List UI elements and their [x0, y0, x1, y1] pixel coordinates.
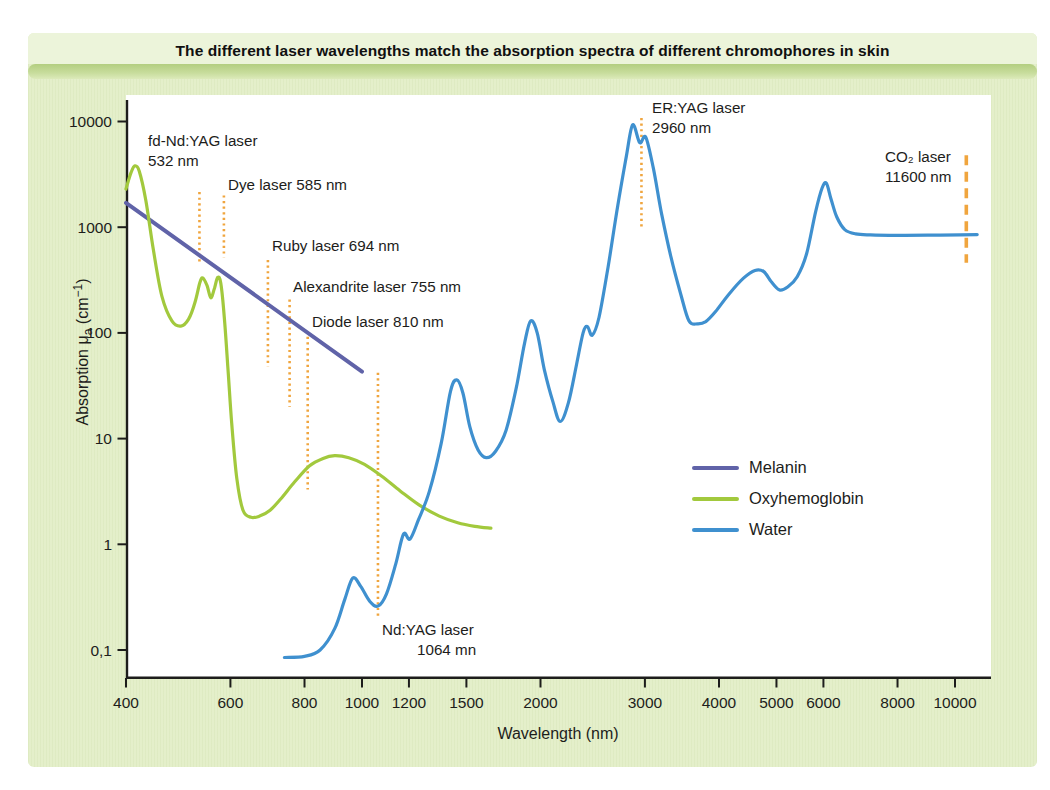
- y-tick-label: 1: [103, 536, 112, 553]
- chart-legend: MelaninOxyhemoglobinWater: [692, 452, 864, 545]
- figure-page: { "figure": { "title": "The different la…: [0, 0, 1050, 790]
- x-tick-label: 400: [113, 694, 139, 711]
- legend-row-water: Water: [692, 514, 864, 545]
- y-tick-label: 1000: [78, 219, 113, 236]
- x-axis-title: Wavelength (nm): [497, 725, 618, 742]
- x-tick-label: 8000: [880, 694, 915, 711]
- x-tick-label: 5000: [759, 694, 794, 711]
- x-tick-label: 10000: [933, 694, 976, 711]
- series-oxyhemoglobin: [126, 166, 491, 528]
- legend-label-melanin: Melanin: [749, 458, 807, 477]
- x-tick-label: 3000: [628, 694, 663, 711]
- x-tick-label: 1000: [345, 694, 380, 711]
- legend-swatch-melanin: [692, 466, 739, 470]
- x-tick-label: 6000: [806, 694, 841, 711]
- x-tick-label: 2000: [523, 694, 558, 711]
- legend-swatch-oxyhemoglobin: [692, 497, 739, 501]
- x-tick-label: 1200: [392, 694, 427, 711]
- x-tick-label: 4000: [702, 694, 737, 711]
- x-tick-label: 1500: [449, 694, 484, 711]
- legend-label-water: Water: [749, 520, 792, 539]
- y-tick-label: 10: [95, 430, 113, 447]
- legend-row-oxyhemoglobin: Oxyhemoglobin: [692, 483, 864, 514]
- legend-swatch-water: [692, 528, 739, 532]
- absorption-spectra-chart: 1000010001001010,14006008001000120015002…: [0, 0, 1050, 790]
- legend-label-oxyhemoglobin: Oxyhemoglobin: [749, 489, 864, 508]
- x-tick-label: 600: [217, 694, 243, 711]
- legend-row-melanin: Melanin: [692, 452, 864, 483]
- y-axis-title: Absorption μa (cm−1): [71, 279, 95, 426]
- series-water: [284, 125, 977, 658]
- x-tick-label: 800: [292, 694, 318, 711]
- y-tick-label: 10000: [69, 113, 112, 130]
- y-tick-label: 0,1: [90, 642, 112, 659]
